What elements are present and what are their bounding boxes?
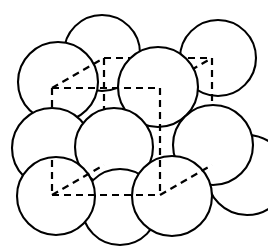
sphere-front-bottom-right xyxy=(132,156,212,236)
lattice-figure xyxy=(0,0,268,247)
sphere-layer-front xyxy=(17,156,212,245)
crystal-lattice-diagram xyxy=(0,0,268,247)
